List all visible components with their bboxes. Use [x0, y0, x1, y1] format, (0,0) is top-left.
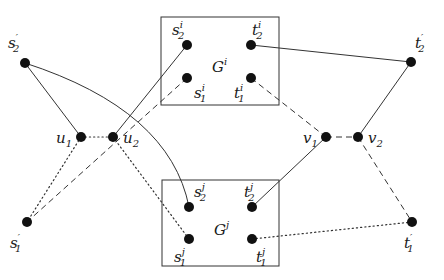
- node-label-t2j: tj2: [244, 181, 255, 203]
- diagram-svg: GiGjs′2s′1u1u2v1v2t′2t′1si2ti2si1ti1sj2t…: [0, 0, 444, 280]
- node-s1j: [184, 234, 194, 244]
- node-t1p: [407, 217, 417, 227]
- edge-u2-s1j-dotted: [113, 137, 189, 239]
- node-label-t2i: ti2: [252, 19, 263, 41]
- node-t2i: [246, 40, 256, 50]
- node-t2j: [247, 202, 257, 212]
- node-label-s2j: sj2: [194, 181, 206, 203]
- edge-s2p-s2j-solid: [25, 63, 189, 207]
- box-label-Gi: Gi: [212, 56, 227, 76]
- node-s1p: [22, 217, 32, 227]
- edge-t2p-v2-solid: [358, 62, 411, 137]
- node-label-v2: v2: [368, 129, 383, 149]
- node-label-t1j: tj1: [256, 246, 267, 268]
- node-label-u1: u1: [56, 129, 72, 149]
- node-t2p: [406, 57, 416, 67]
- node-u1: [76, 132, 86, 142]
- node-s2p: [20, 58, 30, 68]
- node-t1i: [246, 73, 256, 83]
- node-label-t1p: t′1: [404, 232, 414, 254]
- node-label-s1i: si1: [194, 82, 206, 104]
- node-label-u2: u2: [123, 129, 139, 149]
- graph-diagram: GiGjs′2s′1u1u2v1v2t′2t′1si2ti2si1ti1sj2t…: [0, 0, 444, 280]
- node-label-s1p: s′1: [10, 232, 21, 254]
- edge-v2-t1p-dashed: [358, 137, 412, 222]
- edge-u2-s2i-solid: [113, 45, 187, 137]
- node-label-v1: v1: [303, 129, 318, 149]
- node-t1j: [247, 234, 257, 244]
- node-s2i: [182, 40, 192, 50]
- edge-t2i-t2p-solid: [251, 45, 411, 62]
- node-s2j: [184, 202, 194, 212]
- edge-t1i-v1-dashed: [251, 78, 326, 137]
- node-label-t1i: ti1: [234, 82, 245, 104]
- node-label-s2p: s′2: [8, 32, 19, 54]
- node-s1i: [182, 73, 192, 83]
- node-v1: [321, 132, 331, 142]
- node-u2: [108, 132, 118, 142]
- edge-t1j-t1p-dotted: [252, 222, 412, 239]
- node-label-s2i: si2: [172, 19, 184, 41]
- box-label-Gj: Gj: [214, 219, 229, 239]
- node-label-s1j: sj1: [174, 246, 186, 268]
- node-v2: [353, 132, 363, 142]
- edge-s2p-u1-solid: [25, 63, 81, 137]
- node-label-t2p: t′2: [415, 32, 425, 54]
- edge-u1-s1p-dotted: [27, 137, 81, 222]
